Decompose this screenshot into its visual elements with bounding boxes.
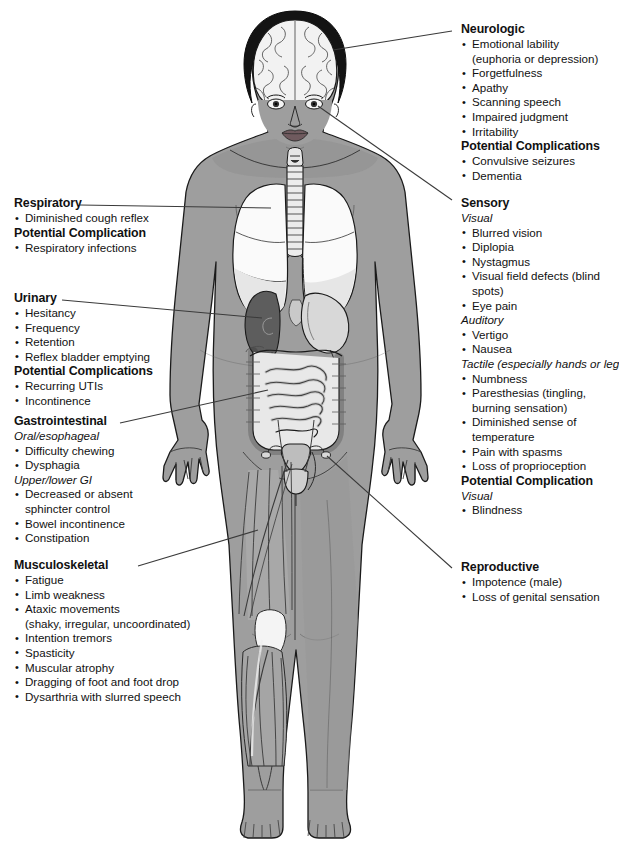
list-item: Dysarthria with slurred speech — [14, 690, 224, 705]
section-list-sensory-visual: Blurred vision Diplopia Nystagmus Visual… — [461, 226, 619, 314]
annotation-sensory: Sensory Visual Blurred vision Diplopia N… — [461, 196, 619, 518]
list-item: Limb weakness — [14, 588, 224, 603]
list-item: Apathy — [461, 81, 619, 96]
list-item: Spasticity — [14, 646, 224, 661]
subheading-upper-lower-gi: Upper/lower GI — [14, 473, 204, 488]
list-item: Constipation — [14, 531, 204, 546]
list-item: Reflex bladder emptying — [14, 350, 204, 365]
diagram-page: Neurologic Emotional lability (euphoria … — [0, 0, 619, 862]
complications-list-sensory: Blindness — [461, 503, 619, 518]
list-item: Nausea — [461, 342, 619, 357]
list-item: Incontinence — [14, 394, 204, 409]
list-item: Convulsive seizures — [461, 154, 619, 169]
list-item: Blindness — [461, 503, 619, 518]
complications-heading-neurologic: Potential Complications — [461, 139, 619, 154]
list-item: Impaired judgment — [461, 110, 619, 125]
list-item: Fatigue — [14, 573, 224, 588]
section-list-gi-upper-lower: Decreased or absent sphincter control Bo… — [14, 487, 204, 545]
list-item: Visual field defects (blind spots) — [461, 269, 619, 298]
complications-heading-sensory: Potential Complication — [461, 474, 619, 489]
list-item: Loss of genital sensation — [461, 590, 619, 605]
list-item: Recurring UTIs — [14, 379, 204, 394]
leader-neurologic — [333, 31, 452, 50]
list-item: Pain with spasms — [461, 445, 619, 460]
annotation-urinary: Urinary Hesitancy Frequency Retention Re… — [14, 291, 204, 409]
list-item: Blurred vision — [461, 226, 619, 241]
list-item: Dementia — [461, 169, 619, 184]
list-item: Difficulty chewing — [14, 444, 204, 459]
list-item: Nystagmus — [461, 255, 619, 270]
list-item: Vertigo — [461, 328, 619, 343]
list-item: Muscular atrophy — [14, 661, 224, 676]
subheading-oral-esophageal: Oral/esophageal — [14, 429, 204, 444]
list-item: Irritability — [461, 125, 619, 140]
list-item: Diminished sense of temperature — [461, 415, 619, 444]
section-heading-sensory: Sensory — [461, 196, 619, 211]
list-item: Numbness — [461, 372, 619, 387]
section-list-urinary: Hesitancy Frequency Retention Reflex bla… — [14, 306, 204, 364]
section-heading-reproductive: Reproductive — [461, 560, 619, 575]
intestines — [246, 346, 346, 450]
list-item: Bowel incontinence — [14, 517, 204, 532]
section-list-sensory-auditory: Vertigo Nausea — [461, 328, 619, 357]
section-list-neurologic: Emotional lability (euphoria or depressi… — [461, 37, 619, 139]
head-group — [244, 11, 346, 149]
section-list-reproductive: Impotence (male) Loss of genital sensati… — [461, 575, 619, 604]
list-item: Loss of proprioception — [461, 459, 619, 474]
annotation-respiratory: Respiratory Diminished cough reflex Pote… — [14, 196, 204, 255]
brain — [253, 20, 336, 109]
subheading-visual: Visual — [461, 211, 619, 226]
complications-heading-respiratory: Potential Complication — [14, 226, 204, 241]
section-list-respiratory: Diminished cough reflex — [14, 211, 204, 226]
list-item: Dragging of foot and foot drop — [14, 675, 224, 690]
subheading-tactile: Tactile (especially hands or legs) — [461, 357, 619, 372]
section-list-sensory-tactile: Numbness Paresthesias (tingling, burning… — [461, 372, 619, 474]
list-item: Dysphagia — [14, 458, 204, 473]
list-item: Retention — [14, 335, 204, 350]
annotation-reproductive: Reproductive Impotence (male) Loss of ge… — [461, 560, 619, 604]
list-item: Eye pain — [461, 299, 619, 314]
complications-list-respiratory: Respiratory infections — [14, 241, 204, 256]
list-item: Scanning speech — [461, 95, 619, 110]
section-heading-urinary: Urinary — [14, 291, 204, 306]
subheading-complication-visual: Visual — [461, 489, 619, 504]
bladder — [284, 469, 308, 494]
annotation-neurologic: Neurologic Emotional lability (euphoria … — [461, 22, 619, 183]
section-heading-musculoskeletal: Musculoskeletal — [14, 558, 224, 573]
complications-list-urinary: Recurring UTIs Incontinence — [14, 379, 204, 408]
list-item: Forgetfulness — [461, 66, 619, 81]
list-item: Diplopia — [461, 240, 619, 255]
section-heading-gastrointestinal: Gastrointestinal — [14, 414, 204, 429]
list-item: Decreased or absent sphincter control — [14, 487, 204, 516]
list-item: Intention tremors — [14, 631, 224, 646]
complications-heading-urinary: Potential Complications — [14, 364, 204, 379]
section-heading-respiratory: Respiratory — [14, 196, 204, 211]
list-item: Frequency — [14, 321, 204, 336]
complications-list-neurologic: Convulsive seizures Dementia — [461, 154, 619, 183]
section-list-musculoskeletal: Fatigue Limb weakness Ataxic movements (… — [14, 573, 224, 704]
subheading-auditory: Auditory — [461, 313, 619, 328]
list-item: Emotional lability (euphoria or depressi… — [461, 37, 619, 66]
list-item: Ataxic movements (shaky, irregular, unco… — [14, 602, 224, 631]
list-item: Respiratory infections — [14, 241, 204, 256]
list-item: Diminished cough reflex — [14, 211, 204, 226]
list-item: Hesitancy — [14, 306, 204, 321]
annotation-gastrointestinal: Gastrointestinal Oral/esophageal Difficu… — [14, 414, 204, 546]
section-list-gi-oral: Difficulty chewing Dysphagia — [14, 444, 204, 473]
annotation-musculoskeletal: Musculoskeletal Fatigue Limb weakness At… — [14, 558, 224, 704]
section-heading-neurologic: Neurologic — [461, 22, 619, 37]
list-item: Impotence (male) — [461, 575, 619, 590]
list-item: Paresthesias (tingling, burning sensatio… — [461, 386, 619, 415]
